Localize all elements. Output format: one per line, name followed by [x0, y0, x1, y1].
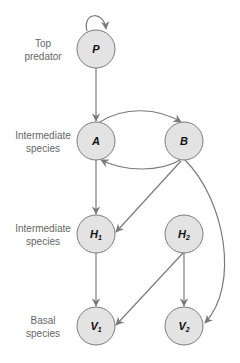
level-label-intermediate-2: Intermediate species — [15, 223, 71, 247]
level-label-basal: Basal species — [26, 315, 60, 339]
edge-p-self-loop — [86, 16, 106, 31]
level-label-line2: species — [26, 328, 60, 339]
edge-a-to-b — [100, 111, 181, 122]
node-label: B — [180, 135, 188, 147]
level-label-top-predator: Top predator — [24, 38, 62, 62]
level-label-line1: Intermediate — [15, 130, 71, 141]
node-label: P — [92, 43, 100, 55]
level-label-line2: species — [26, 143, 60, 154]
node-h2: H2 — [165, 215, 203, 253]
edge-b-to-a — [101, 160, 180, 169]
node-v2: V2 — [165, 307, 203, 345]
node-b: B — [165, 122, 203, 160]
node-v1: V1 — [77, 307, 115, 345]
level-label-line1: Top — [35, 38, 52, 49]
food-web-diagram: Top predator Intermediate species Interm… — [0, 0, 240, 363]
level-label-line2: predator — [24, 51, 62, 62]
level-label-line2: species — [26, 236, 60, 247]
level-label-line1: Basal — [30, 315, 55, 326]
node-a: A — [77, 122, 115, 160]
node-p: P — [77, 30, 115, 68]
level-label-line1: Intermediate — [15, 223, 71, 234]
node-h1: H1 — [77, 215, 115, 253]
level-label-intermediate-1: Intermediate species — [15, 130, 71, 154]
node-label: A — [91, 135, 100, 147]
